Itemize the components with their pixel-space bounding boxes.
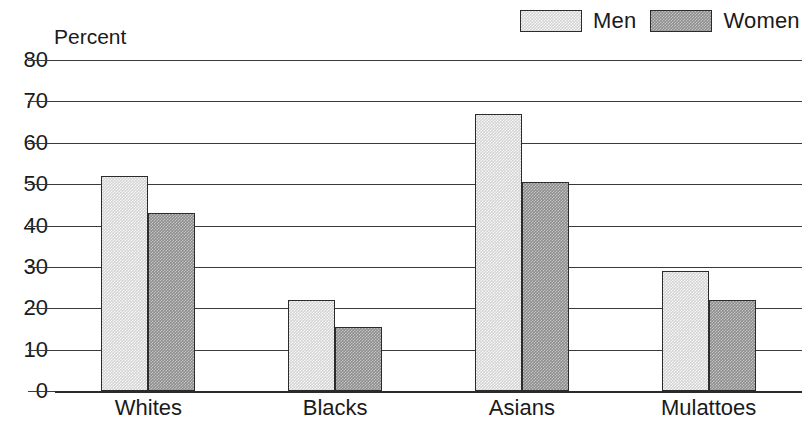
y-tick-mark-10 bbox=[28, 350, 55, 351]
legend-label-women: Women bbox=[723, 10, 799, 32]
bar-whites-men bbox=[101, 176, 148, 391]
chart-legend: Men Women bbox=[520, 6, 810, 36]
y-tick-mark-50 bbox=[28, 184, 55, 185]
gridline-0 bbox=[55, 391, 802, 393]
x-axis-label-mulattoes: Mulattoes bbox=[661, 396, 756, 420]
bar-mulattoes-women bbox=[709, 300, 756, 391]
x-axis-category-labels: WhitesBlacksAsiansMulattoes bbox=[55, 396, 802, 430]
x-axis-label-blacks: Blacks bbox=[303, 396, 368, 420]
women-swatch-icon bbox=[650, 10, 712, 32]
y-tick-mark-0 bbox=[28, 391, 55, 392]
y-axis-title: Percent bbox=[54, 26, 126, 47]
gridline-60 bbox=[55, 143, 802, 144]
gridline-80 bbox=[55, 60, 802, 61]
x-axis-label-asians: Asians bbox=[489, 396, 555, 420]
legend-label-men: Men bbox=[593, 10, 636, 32]
bar-asians-men bbox=[475, 114, 522, 391]
men-swatch-icon bbox=[520, 10, 582, 32]
y-tick-mark-80 bbox=[28, 60, 55, 61]
bar-blacks-men bbox=[288, 300, 335, 391]
gridline-70 bbox=[55, 101, 802, 102]
y-tick-mark-60 bbox=[28, 143, 55, 144]
legend-item-men: Men bbox=[520, 10, 636, 32]
plot-area bbox=[55, 60, 802, 391]
bar-mulattoes-men bbox=[662, 271, 709, 391]
y-tick-mark-30 bbox=[28, 267, 55, 268]
y-tick-mark-20 bbox=[28, 308, 55, 309]
gridline-50 bbox=[55, 184, 802, 185]
bar-whites-women bbox=[148, 213, 195, 391]
bar-blacks-women bbox=[335, 327, 382, 391]
bar-asians-women bbox=[522, 182, 569, 391]
legend-item-women: Women bbox=[650, 10, 799, 32]
y-tick-mark-40 bbox=[28, 226, 55, 227]
y-tick-mark-70 bbox=[28, 101, 55, 102]
bar-chart: Men Women Percent 01020304050607080 Whit… bbox=[0, 0, 812, 433]
x-axis-label-whites: Whites bbox=[115, 396, 182, 420]
